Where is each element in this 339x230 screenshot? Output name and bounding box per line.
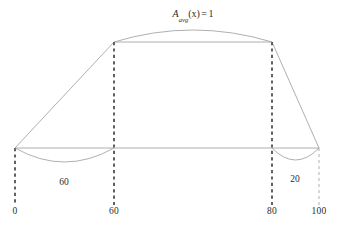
trapezoid-outline (15, 42, 319, 148)
underbrace-span-60 (15, 148, 114, 162)
underbrace-span-20 (272, 148, 319, 160)
tick-label-60: 60 (109, 206, 119, 216)
figure-canvas: Aavg(x)=1 60 20 0 60 80 100 (0, 0, 339, 230)
tick-label-100: 100 (312, 206, 327, 216)
brace-label-20: 20 (290, 174, 300, 184)
overbrace-plateau (114, 30, 272, 42)
formula-equals: = (200, 8, 209, 19)
formula-value: 1 (208, 8, 213, 19)
formula-label: Aavg(x)=1 (173, 8, 214, 21)
formula-argument: (x) (188, 8, 200, 19)
tick-label-80: 80 (267, 206, 277, 216)
brace-label-60: 60 (59, 177, 69, 187)
trapezoid-diagram-svg (0, 0, 339, 230)
tick-label-0: 0 (13, 206, 18, 216)
formula-subscript: avg (179, 16, 189, 23)
